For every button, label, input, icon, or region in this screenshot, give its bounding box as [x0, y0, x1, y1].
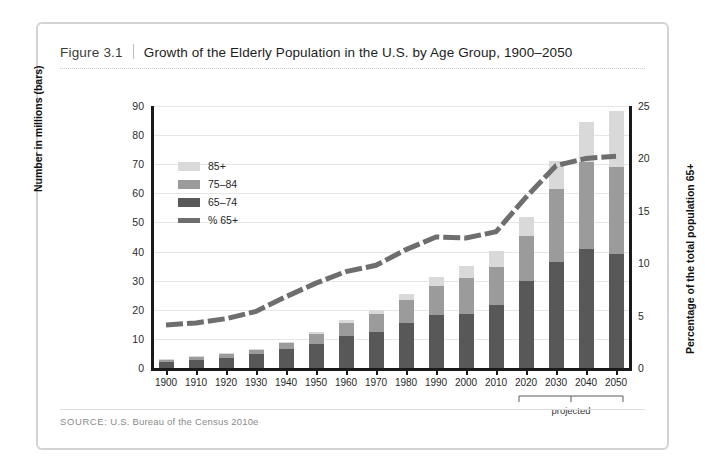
y-axis-left-tick-label: 50: [132, 216, 144, 228]
y-axis-right-ticks: 0510152025: [638, 106, 678, 368]
y-axis-left-tick-label: 40: [132, 246, 144, 258]
x-axis-tick-label: 1940: [275, 377, 297, 388]
legend-label: 75–84: [208, 178, 237, 190]
x-axis-tick: [256, 368, 258, 375]
x-axis-tick-label: 1960: [335, 377, 357, 388]
x-axis-tick: [466, 368, 468, 375]
x-axis-tick: [556, 368, 558, 375]
y-axis-right-title: Percentage of the total population 65+: [684, 164, 696, 355]
projected-label: projected: [551, 405, 590, 416]
figure-number: Figure 3.1: [60, 45, 123, 60]
x-axis-tick-label: 2030: [545, 377, 567, 388]
y-axis-right-tick-label: 0: [638, 362, 644, 374]
x-axis-ticks: [151, 368, 632, 376]
page-title: Growth of the Elderly Population in the …: [144, 45, 573, 60]
legend-item: 65–74: [178, 196, 238, 208]
source-value: U.S. Bureau of the Census 2010e: [110, 416, 258, 427]
y-axis-left-ticks: 0102030405060708090: [98, 106, 144, 368]
y-axis-left-tick-label: 90: [132, 100, 144, 112]
legend-label: 65–74: [208, 196, 237, 208]
y-axis-left-tick-label: 70: [132, 158, 144, 170]
legend-item: 75–84: [178, 178, 238, 190]
x-axis-tick: [616, 368, 618, 375]
y-axis-right-tick-label: 10: [638, 257, 650, 269]
legend-swatch-age-65-74: [178, 198, 200, 207]
percent-line-series: [151, 106, 631, 368]
x-axis-tick-label: 2040: [575, 377, 597, 388]
y-axis-left-tick-label: 30: [132, 275, 144, 287]
x-axis-tick: [586, 368, 588, 375]
figure-frame: Figure 3.1 Growth of the Elderly Populat…: [36, 22, 669, 450]
figure-title-row: Figure 3.1 Growth of the Elderly Populat…: [60, 42, 572, 60]
x-axis-tick-label: 1930: [245, 377, 267, 388]
x-axis-tick-label: 1990: [425, 377, 447, 388]
y-axis-left-tick-label: 80: [132, 129, 144, 141]
x-axis-tick: [376, 368, 378, 375]
x-axis-tick: [226, 368, 228, 375]
y-axis-right-tick-label: 15: [638, 205, 650, 217]
x-axis-tick: [346, 368, 348, 375]
title-divider: [60, 68, 645, 69]
x-axis-tick: [196, 368, 198, 375]
y-axis-left-tick-label: 60: [132, 187, 144, 199]
y-axis-left-tick-label: 10: [132, 333, 144, 345]
legend-swatch-age-75-84: [178, 180, 200, 189]
x-axis-tick-label: 1950: [305, 377, 327, 388]
y-axis-left-tick-label: 0: [138, 362, 144, 374]
x-axis-tick-label: 1920: [215, 377, 237, 388]
x-axis-tick: [436, 368, 438, 375]
x-axis-tick: [406, 368, 408, 375]
legend-swatch-percent-line: [178, 218, 200, 223]
y-axis-right-tick-label: 20: [638, 152, 650, 164]
x-axis-tick-label: 1900: [155, 377, 177, 388]
legend-item: % 65+: [178, 214, 238, 226]
title-separator: [133, 44, 134, 59]
legend-swatch-age-85-plus: [178, 162, 200, 171]
x-axis-tick: [166, 368, 168, 375]
y-axis-right-tick-label: 25: [638, 100, 650, 112]
x-axis-tick-label: 2010: [485, 377, 507, 388]
x-axis-tick: [526, 368, 528, 375]
x-axis-labels: 1900191019201930194019501960197019801990…: [151, 377, 632, 393]
x-axis-tick: [286, 368, 288, 375]
x-axis-tick-label: 2020: [515, 377, 537, 388]
x-axis-tick-label: 1980: [395, 377, 417, 388]
x-axis-tick-label: 2000: [455, 377, 477, 388]
projected-bracket: [518, 393, 628, 405]
source-divider: [60, 409, 645, 410]
source-note: SOURCE: U.S. Bureau of the Census 2010e: [60, 416, 259, 427]
legend-item: 85+: [178, 160, 238, 172]
bracket-path: [519, 396, 623, 402]
plot-area: [151, 106, 631, 368]
y-axis-right-tick-label: 5: [638, 310, 644, 322]
x-axis-tick: [316, 368, 318, 375]
x-axis-tick-label: 1970: [365, 377, 387, 388]
legend-label: 85+: [208, 160, 226, 172]
legend-label: % 65+: [208, 214, 238, 226]
source-label: SOURCE:: [60, 416, 107, 427]
chart-legend: 85+75–8465–74% 65+: [178, 160, 238, 226]
x-axis-tick-label: 2050: [605, 377, 627, 388]
x-axis-tick-label: 1910: [185, 377, 207, 388]
y-axis-left-title: Number in millions (bars): [32, 65, 44, 192]
y-axis-left-tick-label: 20: [132, 304, 144, 316]
x-axis-tick: [496, 368, 498, 375]
